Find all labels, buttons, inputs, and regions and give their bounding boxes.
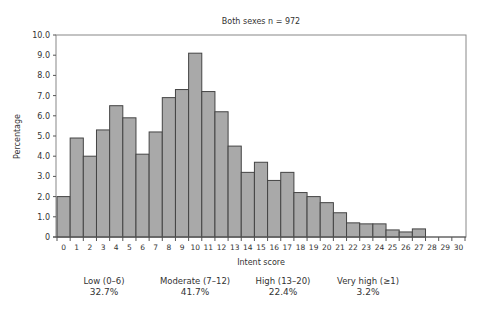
histogram-bar [254,162,267,237]
y-tick-label: 9.0 [37,51,50,60]
x-tick-label: 4 [114,243,119,252]
histogram-bar [399,232,412,237]
histogram-bar [307,197,320,237]
x-tick-label: 30 [454,243,464,252]
category-moderate-label: Moderate (7–12) [145,276,245,287]
x-tick-label: 12 [217,243,227,252]
x-tick-label: 3 [101,243,106,252]
histogram-bar [136,154,149,237]
histogram-bar [268,180,281,237]
histogram-bar [57,197,70,237]
x-tick-label: 21 [335,243,345,252]
category-low-value: 32.7% [54,287,154,298]
category-very-high-value: 3.2% [318,287,418,298]
x-tick-label: 15 [256,243,266,252]
y-tick-label: 3.0 [37,172,50,181]
x-tick-label: 14 [243,243,253,252]
category-very-high-label: Very high (≥1) [318,276,418,287]
x-axis-label: Intent score [56,258,466,267]
histogram-bar [83,156,96,237]
x-tick-label: 11 [204,243,214,252]
histogram-bar [294,193,307,237]
histogram-bar [202,92,215,237]
histogram-bar [320,203,333,237]
histogram-bar [70,138,83,237]
x-tick-label: 7 [153,243,158,252]
x-tick-label: 23 [362,243,372,252]
x-tick-label: 27 [414,243,424,252]
histogram-bar [412,229,425,237]
histogram-bar [175,90,188,237]
histogram-bar [110,106,123,237]
x-tick-label: 8 [166,243,171,252]
x-tick-label: 1 [74,243,79,252]
x-tick-label: 0 [61,243,66,252]
chart-title: Both sexes n = 972 [56,17,466,26]
x-tick-label: 6 [140,243,145,252]
category-moderate-value: 41.7% [145,287,245,298]
x-tick-label: 17 [283,243,293,252]
category-low: Low (0–6) 32.7% [54,276,154,298]
histogram-bar [360,224,373,237]
x-tick-label: 29 [440,243,450,252]
x-tick-label: 24 [375,243,385,252]
x-tick-label: 22 [348,243,358,252]
histogram-bar [333,213,346,237]
y-tick-label: 10.0 [32,31,50,40]
x-tick-label: 9 [180,243,185,252]
x-tick-label: 28 [427,243,437,252]
x-tick-label: 19 [309,243,319,252]
x-tick-label: 10 [190,243,200,252]
histogram-bar [347,223,360,237]
y-tick-label: 4.0 [37,152,50,161]
x-tick-label: 18 [296,243,306,252]
histogram-bar [215,112,228,237]
x-tick-label: 20 [322,243,332,252]
histogram-bar [123,118,136,237]
category-very-high: Very high (≥1) 3.2% [318,276,418,298]
histogram-bar [241,172,254,237]
y-tick-label: 5.0 [37,132,50,141]
x-tick-label: 5 [127,243,132,252]
histogram-bar [96,130,109,237]
histogram-bar [373,224,386,237]
x-tick-label: 26 [401,243,411,252]
x-tick-label: 16 [269,243,279,252]
histogram-bar [386,230,399,237]
x-tick-label: 2 [88,243,93,252]
histogram-bar [162,98,175,237]
y-tick-label: 2.0 [37,193,50,202]
histogram-bar [228,146,241,237]
histogram-bar [189,53,202,237]
histogram-bar [281,172,294,237]
y-tick-label: 1.0 [37,213,50,222]
histogram-bar [149,132,162,237]
y-tick-label: 0 [45,233,50,242]
x-tick-label: 13 [230,243,240,252]
y-tick-label: 8.0 [37,71,50,80]
category-low-label: Low (0–6) [54,276,154,287]
x-tick-label: 25 [388,243,398,252]
y-tick-label: 6.0 [37,112,50,121]
y-axis-label: Percentage [13,102,22,172]
category-moderate: Moderate (7–12) 41.7% [145,276,245,298]
y-tick-label: 7.0 [37,92,50,101]
